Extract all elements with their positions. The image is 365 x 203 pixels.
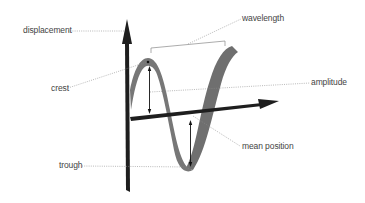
vertical-axis-arrowhead: [122, 19, 132, 44]
leader-wavelength: [188, 19, 241, 44]
label-amplitude: amplitude: [311, 78, 347, 87]
label-wavelength: wavelength: [242, 14, 284, 23]
label-mean-position: mean position: [242, 142, 294, 151]
vertical-axis: [125, 42, 130, 192]
crest-point: [147, 61, 150, 64]
leader-trough: [82, 166, 190, 167]
leader-amplitude: [150, 83, 310, 92]
label-trough: trough: [59, 161, 83, 170]
label-displacement: displacement: [23, 26, 72, 35]
amplitude-arrow-crest: [148, 66, 151, 114]
label-crest: crest: [51, 84, 69, 93]
horizontal-axis-arrowhead: [258, 99, 279, 109]
wavelength-bracket: [151, 41, 225, 53]
